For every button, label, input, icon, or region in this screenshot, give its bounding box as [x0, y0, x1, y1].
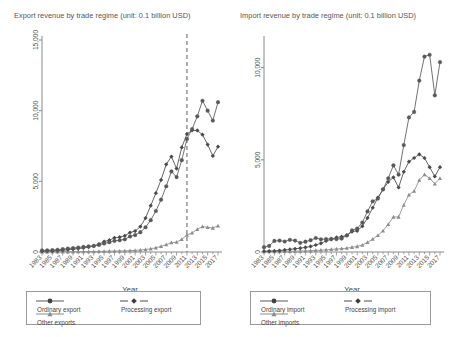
data-point-ordinary [397, 173, 401, 177]
data-point-ordinary [381, 187, 385, 191]
data-point-ordinary [273, 239, 277, 243]
data-point-ordinary [139, 230, 143, 234]
data-point-ordinary [355, 227, 359, 231]
export-panel: Export revenue by trade regime (unit: 0.… [0, 0, 226, 337]
data-point-other [371, 237, 375, 241]
data-point-processing [438, 165, 442, 169]
dual-chart-figure: Export revenue by trade regime (unit: 0.… [0, 0, 452, 337]
ordinary-import-marker-icon [259, 297, 289, 305]
data-point-other [195, 227, 199, 231]
series-line-ordinary [264, 55, 440, 247]
y-axis-tick-label: 10,000 [254, 57, 261, 78]
data-point-processing [216, 145, 220, 149]
data-point-ordinary [350, 228, 354, 232]
legend-label-processing-import: Processing import [345, 306, 395, 313]
data-point-ordinary [195, 114, 199, 118]
data-point-ordinary [386, 176, 390, 180]
data-point-ordinary [175, 175, 179, 179]
data-point-other [428, 176, 432, 180]
data-point-ordinary [154, 209, 158, 213]
x-axis-tick-label: 2017 [203, 254, 219, 270]
data-point-ordinary [262, 245, 266, 249]
data-point-processing [174, 167, 178, 171]
data-point-ordinary [392, 164, 396, 168]
data-point-ordinary [107, 240, 111, 244]
data-point-processing [396, 185, 400, 189]
data-point-processing [123, 234, 127, 238]
data-point-processing [319, 241, 323, 245]
data-point-ordinary [314, 236, 318, 240]
data-point-processing [206, 142, 210, 146]
data-point-ordinary [407, 116, 411, 120]
data-point-ordinary [288, 238, 292, 242]
data-point-ordinary [402, 143, 406, 147]
data-point-ordinary [56, 248, 60, 252]
data-point-processing [149, 204, 153, 208]
data-point-ordinary [361, 221, 365, 225]
legend-label-other-exports: Other exports [37, 319, 75, 326]
data-point-ordinary [170, 170, 174, 174]
data-point-processing [143, 216, 147, 220]
data-point-ordinary [340, 237, 344, 241]
data-point-ordinary [51, 248, 55, 252]
series-line-ordinary [42, 101, 218, 251]
data-point-ordinary [304, 240, 308, 244]
other-exports-marker-icon [35, 310, 65, 318]
data-point-ordinary [206, 109, 210, 113]
processing-import-marker-icon [343, 297, 373, 305]
data-point-ordinary [329, 237, 333, 241]
data-point-ordinary [211, 119, 215, 123]
data-point-ordinary [335, 237, 339, 241]
data-point-ordinary [216, 100, 220, 104]
data-point-processing [371, 206, 375, 210]
y-axis-tick-label: 0 [254, 250, 261, 254]
data-point-ordinary [185, 137, 189, 141]
import-chart-svg: 05,00010,0001983198519871989199119931995… [226, 0, 452, 300]
data-point-processing [433, 174, 437, 178]
data-point-processing [211, 154, 215, 158]
processing-export-marker-icon [119, 297, 149, 305]
data-point-processing [303, 245, 307, 249]
data-point-ordinary [40, 249, 44, 253]
data-point-processing [180, 145, 184, 149]
data-point-processing [308, 244, 312, 248]
data-point-other [216, 224, 220, 228]
x-axis-tick-label: 2017 [425, 254, 441, 270]
data-point-ordinary [87, 244, 91, 248]
data-point-ordinary [164, 184, 168, 188]
legend-label-other-imports: Other imports [261, 319, 299, 326]
data-point-other [412, 189, 416, 193]
data-point-other [422, 172, 426, 176]
data-point-other [402, 203, 406, 207]
data-point-ordinary [376, 197, 380, 201]
data-point-ordinary [267, 244, 271, 248]
data-point-ordinary [71, 246, 75, 250]
other-imports-marker-icon [259, 310, 289, 318]
data-point-ordinary [345, 234, 349, 238]
data-point-ordinary [97, 243, 101, 247]
data-point-ordinary [366, 210, 370, 214]
data-point-ordinary [309, 238, 313, 242]
data-point-ordinary [123, 237, 127, 241]
data-point-ordinary [433, 93, 437, 97]
data-point-ordinary [319, 237, 323, 241]
import-plot-area: 05,00010,0001983198519871989199119931995… [226, 0, 452, 300]
y-axis-tick-label: 15,000 [32, 30, 39, 51]
data-point-ordinary [293, 239, 297, 243]
data-point-processing [365, 216, 369, 220]
data-point-ordinary [371, 199, 375, 203]
data-point-other [438, 176, 442, 180]
import-panel: Import revenue by trade regime (unit: 0.… [226, 0, 452, 337]
y-axis-tick-label: 5,000 [254, 151, 261, 168]
data-point-processing [298, 246, 302, 250]
data-point-ordinary [61, 247, 65, 251]
data-point-other [366, 240, 370, 244]
y-axis-tick-label: 0 [32, 250, 39, 254]
legend-entry-other-imports: Other imports [259, 310, 299, 326]
data-point-other [190, 231, 194, 235]
export-legend: Ordinary export Processing export Other … [26, 291, 201, 325]
legend-entry-other-exports: Other exports [35, 310, 75, 326]
data-point-ordinary [412, 110, 416, 114]
data-point-ordinary [128, 235, 132, 239]
data-point-ordinary [118, 238, 122, 242]
